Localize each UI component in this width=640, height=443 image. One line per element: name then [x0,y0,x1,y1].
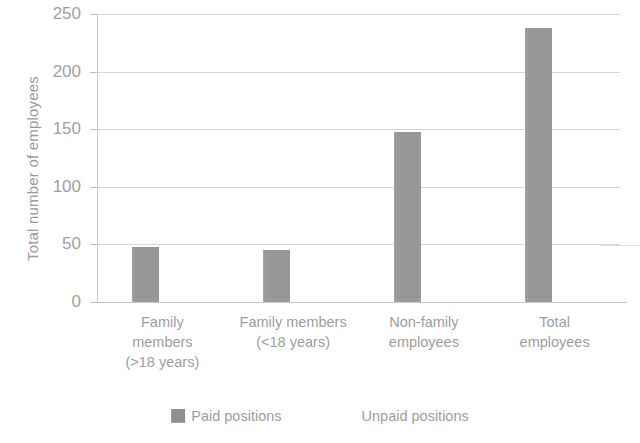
y-tick-label: 250 [35,5,81,22]
x-axis-category-label-line: Family members [228,312,359,332]
scan-artifact-line [600,245,640,246]
y-tick-mark-150 [90,129,97,130]
x-axis-category-label-line: employees [359,332,490,352]
bar-paid-positions [394,132,421,302]
x-axis-category-label-line: (>18 years) [97,352,228,372]
x-axis-category-label: Family members(<18 years) [228,312,359,352]
y-tick-label: 0 [35,293,81,310]
legend-label: Paid positions [191,408,281,424]
x-axis-category-label-line: employees [489,332,620,352]
plot-area [97,14,620,302]
x-axis-category-label: Familymembers(>18 years) [97,312,228,372]
y-tick-label: 200 [35,63,81,80]
x-axis-category-label-line: members [97,332,228,352]
y-tick-mark-200 [90,72,97,73]
x-axis-baseline [97,302,627,303]
x-axis-category-label: Non-familyemployees [359,312,490,352]
x-axis-category-label-line: Total [489,312,620,332]
y-tick-label: 50 [35,235,81,252]
y-tick-mark-250 [90,14,97,15]
legend-item: Unpaid positions [342,408,469,424]
x-axis-category-label: Totalemployees [489,312,620,352]
bar-paid-positions [132,247,159,302]
legend-label: Unpaid positions [362,408,469,424]
y-tick-mark-0 [90,302,97,303]
y-tick-mark-50 [90,244,97,245]
bar-chart-figure: Total number of employees Paid positions… [0,0,640,443]
y-tick-label: 150 [35,120,81,137]
y-tick-label: 100 [35,178,81,195]
bar-paid-positions [525,28,552,302]
y-tick-mark-100 [90,187,97,188]
x-axis-category-label-line: Non-family [359,312,490,332]
legend-item: Paid positions [171,408,281,424]
blank-white-swatch [342,409,356,423]
x-axis-category-label-line: (<18 years) [228,332,359,352]
bar-paid-positions [263,250,290,302]
chart-legend: Paid positionsUnpaid positions [0,408,640,424]
gridline-250 [97,14,620,15]
x-axis-category-label-line: Family [97,312,228,332]
filled-gray-swatch [171,409,185,423]
